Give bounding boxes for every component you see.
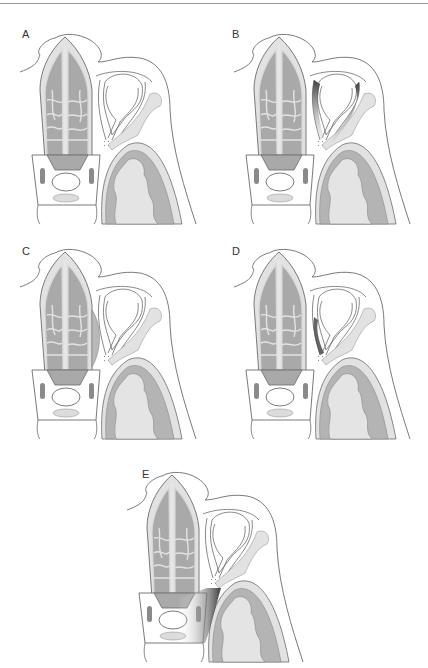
panel-label-e: E	[142, 468, 149, 480]
panel-label-b: B	[232, 28, 239, 40]
panel-a-illustration	[0, 10, 214, 230]
panel-label-a: A	[22, 28, 29, 40]
panel-a: A	[0, 10, 214, 230]
panel-d: D	[214, 225, 428, 445]
top-rule	[0, 3, 428, 4]
panel-label-d: D	[232, 245, 240, 257]
panel-e-illustration	[107, 448, 321, 668]
ethmoid-bulge	[92, 310, 100, 367]
panel-c: C	[0, 225, 214, 445]
panel-e: E	[107, 448, 321, 668]
panel-label-c: C	[22, 245, 30, 257]
panel-d-illustration	[214, 225, 428, 445]
panel-b: B	[214, 10, 428, 230]
panel-c-illustration	[0, 225, 214, 445]
panel-b-illustration	[214, 10, 428, 230]
